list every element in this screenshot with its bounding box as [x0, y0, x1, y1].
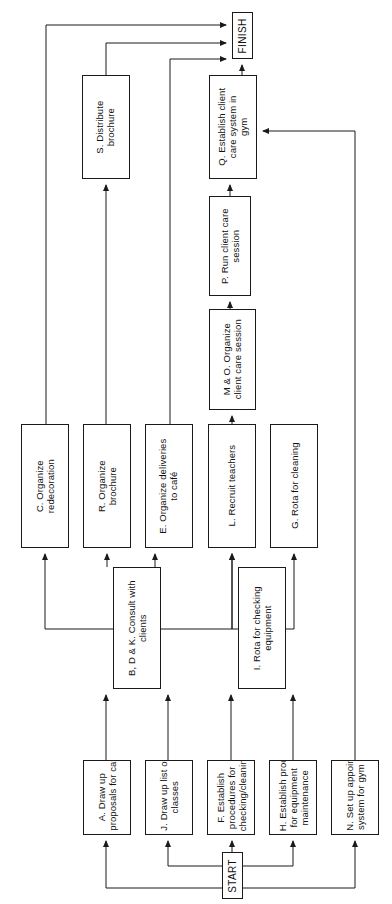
node-start[interactable]: START [222, 852, 243, 899]
node-P[interactable]: P. Run client care session [209, 196, 251, 296]
connector-BDK-L [161, 554, 232, 629]
node-label-E: E. Organize deliveries to café [158, 438, 180, 533]
connector-S-FINISH [106, 43, 226, 75]
node-C[interactable]: C. Organize redecoration [21, 424, 69, 548]
node-label-N: N. Set up appointments system for gym [344, 764, 366, 831]
node-J[interactable]: J. Draw up list of classes [145, 760, 193, 835]
connector-C-FINISH [46, 25, 226, 424]
connector-BDK-C [45, 554, 113, 629]
node-label-F: F. Establish procedures for checking/cle… [214, 764, 248, 831]
node-F[interactable]: F. Establish procedures for checking/cle… [207, 760, 255, 835]
node-label-C: C. Organize redecoration [34, 459, 56, 513]
node-label-P: P. Run client care session [219, 208, 241, 284]
connector-start-N [243, 841, 355, 888]
connector-start-H [243, 841, 293, 866]
node-label-start: START [227, 859, 239, 893]
node-Q[interactable]: Q. Establish client care system in gym [209, 75, 257, 179]
node-label-R: R. Organize brochure [96, 460, 118, 512]
node-MO[interactable]: M & O. Organize client care session [209, 309, 256, 410]
node-label-G: G. Rota for cleaning [288, 443, 299, 530]
node-BDK[interactable]: B, D & K. Consult with clients [113, 567, 161, 689]
connector-start-A [106, 841, 232, 888]
node-label-S: S. Distribute brochure [95, 100, 117, 153]
node-label-L: L. Recruit teachers [226, 445, 237, 527]
node-G[interactable]: G. Rota for cleaning [270, 424, 318, 548]
node-label-H: H. Establish procedures for equipment ma… [276, 764, 310, 831]
node-L[interactable]: L. Recruit teachers [208, 424, 256, 548]
node-N[interactable]: N. Set up appointments system for gym [331, 760, 379, 835]
node-label-finish: FINISH [237, 18, 249, 53]
node-label-MO: M & O. Organize client care session [221, 319, 243, 399]
node-A[interactable]: A. Draw up proposals for café etc [83, 760, 131, 835]
node-label-BDK: B, D & K. Consult with clients [126, 580, 148, 676]
node-I[interactable]: I. Rota for checking equipment [238, 567, 286, 689]
node-R[interactable]: R. Organize brochure [83, 424, 131, 548]
node-label-Q: Q. Establish client care system in gym [216, 88, 250, 166]
connector-I-G [286, 554, 294, 629]
node-E[interactable]: E. Organize deliveries to café [145, 424, 193, 548]
node-S[interactable]: S. Distribute brochure [82, 75, 130, 179]
node-H[interactable]: H. Establish procedures for equipment ma… [269, 760, 317, 835]
node-finish[interactable]: FINISH [232, 12, 253, 59]
flowchart-canvas: FINISHS. Distribute brochureQ. Establish… [0, 0, 392, 904]
node-label-I: I. Rota for checking equipment [251, 586, 273, 670]
node-label-A: A. Draw up proposals for café etc [96, 764, 118, 831]
node-label-J: J. Draw up list of classes [158, 764, 180, 831]
